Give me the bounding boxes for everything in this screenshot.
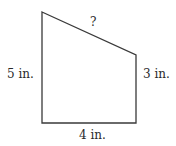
left-side-label: 5 in. (7, 68, 34, 80)
bottom-side-label: 4 in. (79, 129, 106, 141)
trapezoid-diagram: 5 in. 3 in. 4 in. ? (0, 0, 176, 146)
right-side-label: 3 in. (143, 68, 170, 80)
slant-side-label: ? (90, 16, 96, 28)
